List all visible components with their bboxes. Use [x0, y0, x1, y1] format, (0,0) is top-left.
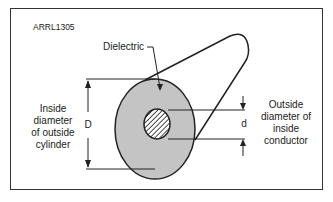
outer-diameter-symbol: D [82, 119, 94, 131]
inner-diameter-label: Outside diameter of inside conductor [254, 99, 318, 147]
inner-conductor [144, 109, 170, 139]
figure-id-label: ARRL1305 [33, 22, 75, 32]
inner-diameter-symbol: d [238, 118, 250, 130]
outer-diameter-label: Inside diameter of outside cylinder [28, 103, 78, 151]
dielectric-label: Dielectric [103, 41, 144, 53]
